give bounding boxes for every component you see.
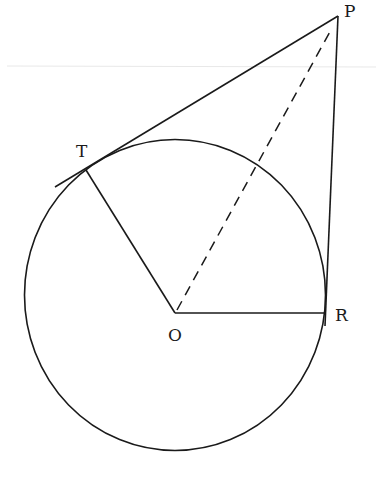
radius-OT (86, 170, 175, 313)
tangent-line-PR (325, 16, 338, 326)
label-T: T (76, 141, 88, 161)
label-R: R (335, 305, 349, 325)
circle (25, 140, 326, 451)
label-P: P (344, 1, 355, 21)
circle-tangent-diagram: P T O R (0, 0, 376, 479)
label-O: O (168, 325, 182, 345)
dashed-line-OP (177, 28, 332, 310)
tangent-line-PT (55, 16, 338, 187)
scan-artifact-line (7, 66, 376, 67)
